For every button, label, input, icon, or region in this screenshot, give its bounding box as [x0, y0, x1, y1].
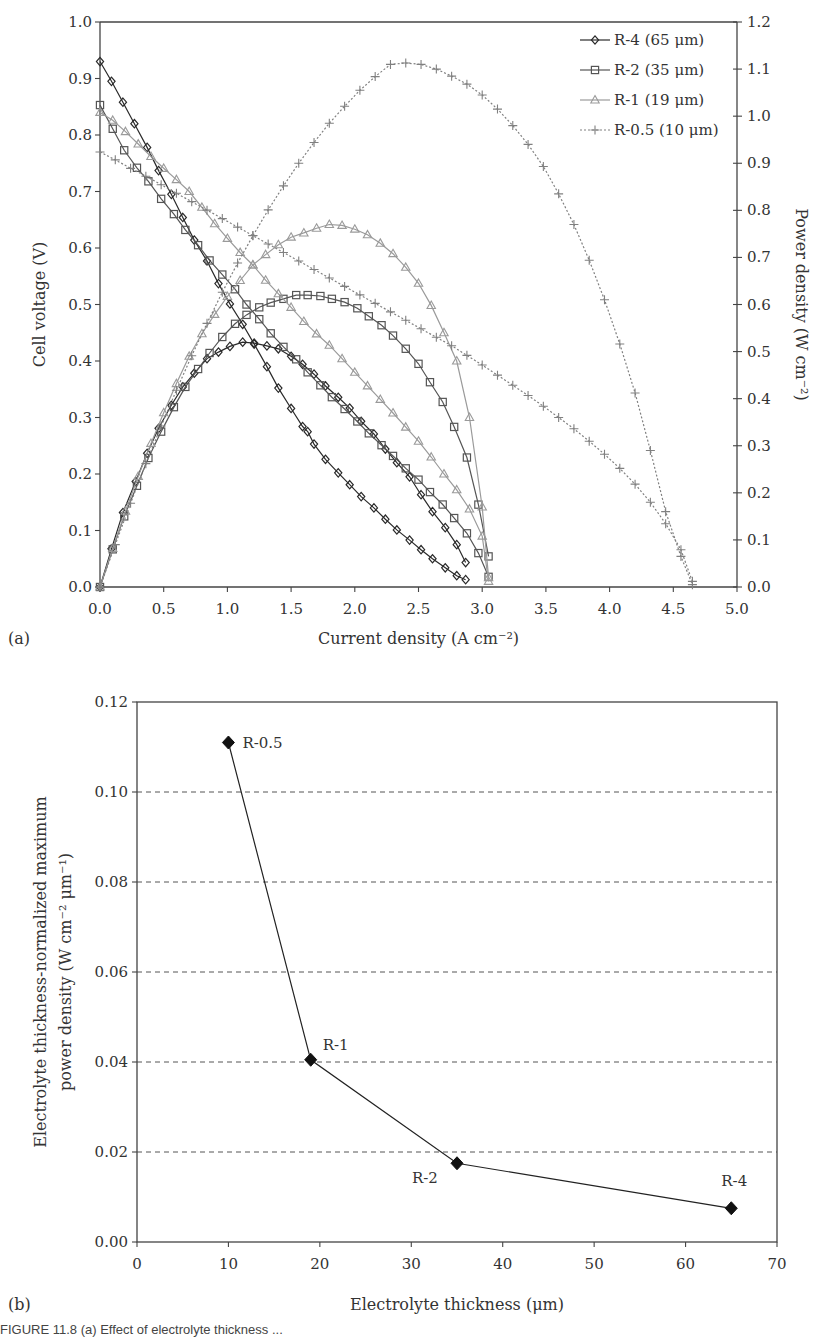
point-label: R-0.5	[242, 734, 282, 752]
data-point-diamond-icon	[305, 1053, 317, 1066]
x-tick-label: 40	[493, 1255, 512, 1273]
data-point-diamond-icon	[725, 1202, 737, 1215]
y-tick-label: 0.02	[95, 1143, 128, 1161]
y-tick-label: 0.04	[95, 1053, 128, 1071]
panel-b-label: (b)	[8, 1295, 31, 1314]
point-label: R-1	[323, 1036, 349, 1054]
y-tick-label: 0.06	[95, 963, 128, 981]
x-tick-label: 0	[132, 1255, 142, 1273]
x-tick-label: 30	[402, 1255, 421, 1273]
series-normalized-power: R-0.5R-1R-2R-4	[222, 734, 747, 1215]
y-tick-label: 0.12	[95, 693, 128, 711]
x-tick-label: 10	[219, 1255, 238, 1273]
point-label: R-4	[721, 1172, 747, 1190]
chart-b-axes: 0.000.020.040.060.080.100.12010203040506…	[8, 693, 787, 1314]
y-axis-title-line2: power density (W cm⁻² μm⁻¹)	[56, 853, 75, 1091]
y-axis-title-line1: Electrolyte thickness-normalized maximum	[31, 796, 50, 1147]
data-line	[228, 743, 731, 1209]
x-tick-label: 50	[585, 1255, 604, 1273]
point-label: R-2	[412, 1169, 438, 1187]
data-point-diamond-icon	[451, 1157, 463, 1170]
y-tick-label: 0.00	[95, 1233, 128, 1251]
figure-caption: FIGURE 11.8 (a) Effect of electrolyte th…	[0, 1322, 283, 1337]
chart-b-normalized-power: 0.000.020.040.060.080.100.12010203040506…	[0, 0, 836, 1337]
x-axis-title: Electrolyte thickness (μm)	[350, 1295, 564, 1314]
x-tick-label: 70	[767, 1255, 786, 1273]
data-point-diamond-icon	[222, 736, 234, 749]
y-tick-label: 0.08	[95, 873, 128, 891]
x-tick-label: 60	[676, 1255, 695, 1273]
x-tick-label: 20	[310, 1255, 329, 1273]
y-tick-label: 0.10	[95, 783, 128, 801]
